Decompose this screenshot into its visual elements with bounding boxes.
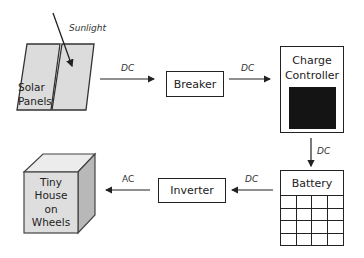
solar-panels-label: Solar Panels	[18, 80, 52, 108]
connection-label-breaker-controller: DC	[241, 63, 254, 73]
battery-box: Battery	[280, 170, 344, 246]
solar-label-line2: Panels	[18, 94, 52, 108]
inverter-label: Inverter	[170, 184, 214, 197]
connection-label-controller-battery: DC	[317, 146, 330, 156]
charge-controller-line2: Controller	[285, 68, 339, 83]
inverter-box: Inverter	[158, 178, 226, 203]
battery-cell-grid	[281, 195, 343, 245]
breaker-box: Breaker	[166, 71, 224, 97]
connection-label-inverter-house: AC	[122, 174, 134, 184]
house-line4: Wheels	[32, 216, 70, 230]
solar-label-line1: Solar	[18, 80, 52, 94]
sunlight-label: Sunlight	[69, 23, 106, 33]
controller-screen	[289, 87, 336, 129]
battery-label: Battery	[292, 176, 333, 191]
tiny-house-label: Tiny House on Wheels	[24, 172, 78, 233]
house-line2: House	[35, 189, 68, 203]
house-line3: on	[44, 203, 57, 217]
breaker-label: Breaker	[174, 78, 217, 91]
house-line1: Tiny	[40, 176, 62, 190]
connection-label-solar-breaker: DC	[121, 63, 134, 73]
charge-controller-line1: Charge	[285, 53, 339, 68]
charge-controller-box: Charge Controller	[280, 46, 344, 133]
connection-label-battery-inverter: DC	[245, 174, 258, 184]
charge-controller-label: Charge Controller	[285, 53, 339, 83]
